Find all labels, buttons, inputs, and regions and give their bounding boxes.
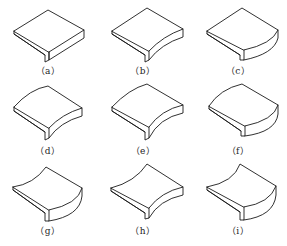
panel-b: （b）	[95, 0, 191, 82]
panel-label: （h）	[95, 224, 191, 237]
panel-label: （g）	[0, 224, 96, 237]
panel-label: （c）	[190, 64, 286, 77]
figure-grid: （a） （b） （c） （d）	[0, 0, 287, 246]
panel-g: （g）	[0, 160, 96, 242]
panel-e: （e）	[95, 80, 191, 162]
panel-label: （f）	[190, 144, 286, 157]
panel-i: （i）	[190, 160, 286, 242]
panel-label: （a）	[0, 64, 96, 77]
panel-label: （i）	[190, 224, 286, 237]
panel-h: （h）	[95, 160, 191, 242]
panel-label: （d）	[0, 144, 96, 157]
panel-a: （a）	[0, 0, 96, 82]
panel-d: （d）	[0, 80, 96, 162]
panel-label: （b）	[95, 64, 191, 77]
panel-f: （f）	[190, 80, 286, 162]
panel-c: （c）	[190, 0, 286, 82]
panel-label: （e）	[95, 144, 191, 157]
